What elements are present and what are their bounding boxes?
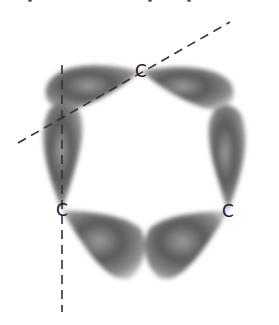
- orbital-diagram: C C C: [0, 0, 279, 325]
- carbon-label-left: C: [56, 200, 68, 220]
- carbon-label-top: C: [135, 61, 147, 81]
- lobe-top-right: [141, 67, 234, 110]
- lobe-bottom-right: [145, 211, 228, 279]
- lobe-bottom-left: [62, 210, 145, 279]
- diagram-svg: C C C: [0, 0, 279, 325]
- carbon-label-right: C: [222, 201, 234, 221]
- lobe-right-up: [209, 105, 246, 211]
- orbital-lobes: [43, 65, 245, 279]
